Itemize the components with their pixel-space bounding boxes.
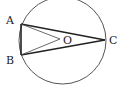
point-label-c: C <box>109 34 117 47</box>
point-label-a: A <box>5 14 15 27</box>
geometry-diagram: A B O C <box>0 0 119 97</box>
point-label-b: B <box>6 54 14 67</box>
segment-bo <box>21 39 60 55</box>
point-label-o: O <box>63 34 72 47</box>
segment-ao <box>21 24 60 39</box>
